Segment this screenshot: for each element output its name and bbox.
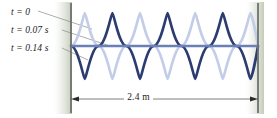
- label-t014: t = 0.14 s: [11, 43, 49, 53]
- label-t0: t = 0: [11, 7, 30, 17]
- dimension-label: 2.4 m: [0, 92, 277, 102]
- dimension-label-text: 2.4 m: [124, 92, 153, 102]
- label-t007: t = 0.07 s: [11, 25, 49, 35]
